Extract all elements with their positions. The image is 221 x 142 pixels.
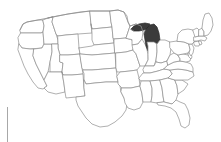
state-colorado[interactable]: [60, 54, 83, 75]
state-washington[interactable]: [20, 20, 44, 33]
state-new-mexico[interactable]: [62, 72, 85, 98]
state-texas[interactable]: [76, 80, 127, 127]
state-arizona[interactable]: [44, 72, 65, 94]
left-margin-rule: [7, 107, 8, 142]
state-new-jersey[interactable]: [189, 44, 194, 56]
state-oklahoma[interactable]: [83, 68, 118, 84]
state-florida[interactable]: [157, 100, 190, 128]
state-maine[interactable]: [202, 13, 213, 36]
state-wyoming[interactable]: [58, 34, 80, 55]
state-kansas[interactable]: [80, 53, 116, 70]
state-oregon[interactable]: [18, 32, 44, 49]
state-rhode-island[interactable]: [199, 41, 202, 45]
state-north-dakota[interactable]: [90, 11, 112, 29]
map-container: [0, 0, 221, 142]
state-arkansas[interactable]: [117, 70, 140, 88]
united-states-map[interactable]: [0, 0, 221, 142]
